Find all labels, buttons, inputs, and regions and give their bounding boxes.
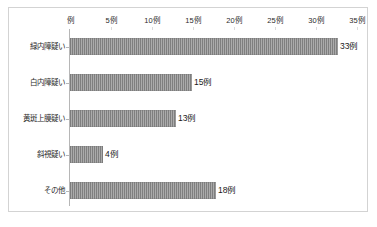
bar-1[interactable] — [70, 74, 192, 91]
chart-row: その他 18例 — [9, 173, 369, 209]
category-label-0: 緑内障疑い — [9, 29, 65, 65]
x-axis-tick-label-6: 30例 — [308, 16, 323, 26]
plot-area: 例 5例 10例 15例 20例 25例 30例 35例 緑内障疑い 33例 白… — [9, 8, 369, 213]
category-label-3: 斜視疑い — [9, 137, 65, 173]
chart-row: 緑内障疑い 33例 — [9, 29, 369, 65]
bar-value-label-0: 33例 — [338, 38, 358, 55]
x-axis-tick-label-0: 例 — [67, 16, 74, 26]
x-axis-tick-label-1: 5例 — [105, 16, 116, 26]
bar-0[interactable] — [70, 38, 338, 55]
bar-4[interactable] — [70, 182, 216, 199]
category-label-4: その他 — [9, 173, 65, 209]
bar-3[interactable] — [70, 146, 103, 163]
x-axis-tick-label-3: 15例 — [185, 16, 200, 26]
bar-value-label-1: 15例 — [192, 74, 212, 91]
x-axis-tick-label-2: 10例 — [144, 16, 159, 26]
bar-value-label-3: 4例 — [103, 146, 119, 163]
x-axis-tick-label-5: 25例 — [267, 16, 282, 26]
chart-frame: 例 5例 10例 15例 20例 25例 30例 35例 緑内障疑い 33例 白… — [8, 7, 368, 212]
category-label-1: 白内障疑い — [9, 65, 65, 101]
chart-row: 斜視疑い 4例 — [9, 137, 369, 173]
x-axis-tick-label-7: 35例 — [349, 16, 364, 26]
x-axis-tick-label-4: 20例 — [226, 16, 241, 26]
bar-value-label-4: 18例 — [216, 182, 236, 199]
chart-row: 黄斑上膜疑い 13例 — [9, 101, 369, 137]
bar-2[interactable] — [70, 110, 176, 127]
category-label-2: 黄斑上膜疑い — [9, 101, 65, 137]
chart-row: 白内障疑い 15例 — [9, 65, 369, 101]
bar-value-label-2: 13例 — [176, 110, 196, 127]
